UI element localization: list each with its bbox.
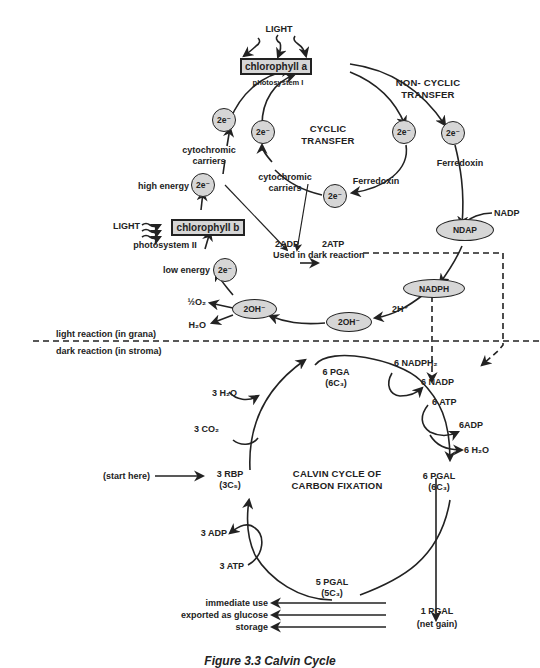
chlorophyll-a-label: chlorophyll a: [245, 61, 307, 72]
nadp6-label: 6 NADP: [421, 377, 454, 387]
ferredoxin-noncyclic-label: Ferredoxin: [437, 158, 484, 168]
water3-label: 3 H₂O: [212, 388, 237, 398]
cyclic-title-1: CYCLIC: [310, 124, 347, 135]
pgal6-label-1: 6 PGAL: [423, 471, 456, 481]
water-output-label: H₂O: [189, 320, 207, 330]
rbp-label-1: 3 RBP: [217, 469, 244, 479]
start-here-label: (start here): [103, 471, 150, 481]
two-h-plus-label: 2H⁺: [392, 304, 408, 314]
photosystem-2-label: photosystem II: [133, 240, 197, 250]
electron-node: 2e⁻: [251, 120, 275, 144]
chlorophyll-a-box: chlorophyll a: [240, 58, 312, 75]
adp6-label: 6ADP: [459, 420, 483, 430]
light-reaction-label: light reaction (in grana): [56, 329, 156, 339]
nadph-node: NADPH: [403, 279, 465, 298]
pga-label-2: (6C₃): [325, 378, 347, 388]
chlorophyll-b-box: chlorophyll b: [171, 219, 245, 236]
electron-node-high-energy: 2e⁻: [191, 173, 215, 197]
electron-node: 2e⁻: [323, 184, 347, 208]
nadp-input-label: NADP: [494, 208, 520, 218]
pgal5-label-2: (5C₃): [321, 588, 343, 598]
cytochromic-carriers-left-1: cytochromic: [182, 145, 236, 155]
low-energy-label: low energy: [163, 265, 210, 275]
cytochromic-carriers-left-2: carriers: [192, 156, 225, 166]
oh-node-right: 2OH⁻: [326, 312, 372, 332]
pgal1-label-1: 1 PGAL: [421, 606, 454, 616]
light-label-left: LIGHT: [113, 221, 140, 231]
calvin-title-1: CALVIN CYCLE OF: [293, 469, 381, 480]
adp3-label: 3 ADP: [201, 528, 227, 538]
cytochromic-carriers-center-1: cytochromic: [258, 172, 312, 182]
half-oxygen-label: ½O₂: [187, 297, 206, 307]
noncyclic-title-1: NON- CYCLIC: [396, 78, 460, 89]
noncyclic-title-2: TRANSFER: [401, 90, 454, 101]
pga-label-1: 6 PGA: [322, 367, 349, 377]
output-exported-glucose: exported as glucose: [181, 610, 268, 620]
ndap-node: NDAP: [436, 219, 494, 241]
adp-label: 2ADP: [275, 239, 299, 249]
output-storage: storage: [235, 622, 268, 632]
rbp-label-2: (3C₅): [219, 480, 241, 490]
chlorophyll-b-label: chlorophyll b: [177, 222, 240, 233]
atp-label: 2ATP: [322, 239, 344, 249]
electron-node: 2e⁻: [212, 108, 236, 132]
light-label-top: LIGHT: [266, 24, 293, 34]
cytochromic-carriers-center-2: carriers: [268, 183, 301, 193]
water6-label: 6 H₂O: [464, 445, 489, 455]
atp3-label: 3 ATP: [219, 561, 244, 571]
pgal1-label-2: (net gain): [417, 619, 458, 629]
atp6-label: 6 ATP: [432, 397, 457, 407]
figure-caption: Figure 3.3 Calvin Cycle: [204, 654, 335, 668]
pgal5-label-1: 5 PGAL: [316, 577, 349, 587]
cyclic-title-2: TRANSFER: [301, 136, 354, 147]
electron-node: 2e⁻: [441, 121, 465, 145]
oh-node-left: 2OH⁻: [232, 299, 277, 319]
photosystem-1-label: photosystem I: [253, 79, 304, 88]
ferredoxin-cyclic-label: Ferredoxin: [353, 176, 400, 186]
nadph2-label: 6 NADPH₂: [394, 358, 438, 368]
calvin-title-2: CARBON FIXATION: [292, 481, 383, 492]
pgal6-label-2: (6C₃): [428, 482, 450, 492]
output-immediate-use: immediate use: [205, 598, 268, 608]
high-energy-label: high energy: [138, 181, 189, 191]
electron-node: 2e⁻: [392, 120, 416, 144]
used-in-dark-label: Used in dark reaction: [273, 250, 365, 260]
co2-label: 3 CO₂: [194, 424, 219, 434]
dark-reaction-label: dark reaction (in stroma): [56, 346, 162, 356]
electron-node-low-energy: 2e⁻: [213, 258, 237, 282]
